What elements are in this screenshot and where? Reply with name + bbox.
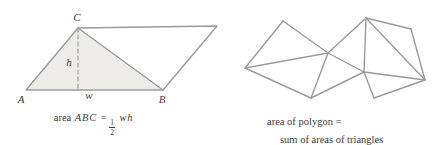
figure-canvas: C A B h w area ABC =12wh area of polygon… <box>0 0 443 145</box>
caption-area-word: area <box>54 112 71 123</box>
vertex-label-B: B <box>159 93 166 105</box>
fraction-numerator: 1 <box>109 119 116 128</box>
parallelogram-figure: C A B h w <box>17 11 217 105</box>
polygon-edge <box>245 68 311 98</box>
polygon-edge <box>366 18 411 29</box>
caption-equals: = <box>101 112 107 123</box>
polygon-edge <box>245 21 283 68</box>
right-caption-line2: sum of areas of triangles <box>280 131 383 145</box>
polygon-edge <box>245 53 328 68</box>
height-label-h: h <box>66 56 72 68</box>
triangulated-polygon <box>245 18 425 98</box>
polygon-edge <box>374 80 425 98</box>
polygon-edge <box>328 53 364 72</box>
polygon-edge <box>364 72 425 80</box>
polygon-edge <box>283 21 328 53</box>
caption-wh: wh <box>119 112 133 123</box>
polygon-edge <box>364 18 366 72</box>
caption-abc: ABC <box>75 112 97 123</box>
shaded-triangle-ABC <box>26 28 163 90</box>
width-label-w: w <box>85 89 93 101</box>
vertex-label-C: C <box>73 11 81 23</box>
one-half-fraction: 12 <box>109 119 116 137</box>
vertex-label-A: A <box>17 93 25 105</box>
left-caption: area ABC =12wh <box>48 112 140 137</box>
polygon-edge <box>364 72 374 98</box>
fraction-denominator: 2 <box>110 128 114 136</box>
polygon-edge <box>328 18 366 53</box>
right-caption-line1: area of polygon = <box>267 113 383 131</box>
right-caption: area of polygon = sum of areas of triang… <box>267 113 383 145</box>
